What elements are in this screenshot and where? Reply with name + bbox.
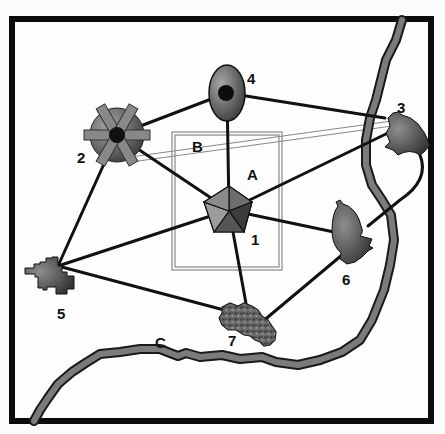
node-3-label: 3: [397, 99, 405, 116]
node-7-label: 7: [228, 332, 236, 349]
region-b-label: B: [192, 138, 203, 155]
network-map-diagram: 1 2 3 4 5 6 7 A B C: [0, 0, 445, 434]
node-4-ellipse[interactable]: [209, 65, 245, 121]
node-5-label: 5: [57, 305, 65, 322]
node-6-label: 6: [342, 271, 350, 288]
node-2-label: 2: [77, 149, 85, 166]
region-c-label: C: [155, 334, 166, 351]
node-4-label: 4: [247, 70, 256, 87]
region-a-label: A: [247, 166, 258, 183]
node-1-label: 1: [251, 231, 259, 248]
